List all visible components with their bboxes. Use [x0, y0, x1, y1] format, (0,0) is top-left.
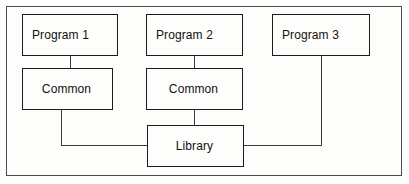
node-program-3[interactable]: Program 3	[272, 14, 370, 56]
connector-program3-down	[321, 56, 322, 146]
node-program-2-label: Program 2	[147, 29, 213, 41]
connector-common1-down	[61, 110, 62, 146]
node-program-1[interactable]: Program 1	[22, 14, 118, 56]
connector-program3-library	[243, 145, 322, 146]
node-program-2[interactable]: Program 2	[146, 14, 243, 56]
node-common-2[interactable]: Common	[146, 68, 243, 110]
diagram-canvas: Program 1 Program 2 Program 3 Common Com…	[0, 0, 409, 184]
node-common-1-label: Common	[42, 83, 93, 95]
node-common-1[interactable]: Common	[22, 68, 113, 110]
node-program-3-label: Program 3	[273, 29, 339, 41]
node-library[interactable]: Library	[147, 125, 244, 167]
node-program-1-label: Program 1	[23, 29, 89, 41]
connector-common1-library	[61, 145, 148, 146]
connector-common2-library	[194, 110, 195, 126]
node-common-2-label: Common	[169, 83, 220, 95]
node-library-label: Library	[176, 140, 215, 152]
